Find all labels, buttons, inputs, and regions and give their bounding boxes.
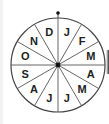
month-label-jan: J [64,26,70,38]
month-label-apr: A [87,68,95,80]
month-label-jul: J [46,92,52,104]
month-label-aug: A [30,83,38,95]
top-marker-dot [56,11,60,15]
month-label-sep: S [21,68,28,80]
month-label-oct: O [21,50,30,62]
month-label-jun: J [64,92,70,104]
month-label-feb: F [79,35,86,47]
month-label-dec: D [45,26,53,38]
month-label-mar: M [86,50,95,62]
month-wheel: J F M A M J J A S O N D [0,0,109,124]
month-label-nov: N [30,35,38,47]
center-dot [56,63,61,68]
month-label-may: M [77,83,86,95]
